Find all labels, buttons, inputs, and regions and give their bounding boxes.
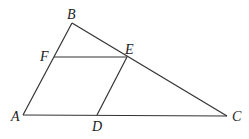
label-d: D (91, 119, 102, 134)
segment-ac (23, 115, 227, 116)
triangle-diagram: B F E A D C (0, 0, 249, 139)
label-a: A (10, 109, 20, 124)
label-e: E (124, 42, 134, 57)
segment-ed (97, 57, 127, 115)
label-b: B (67, 7, 76, 22)
segment-ab (23, 23, 72, 115)
label-c: C (232, 109, 242, 124)
label-f: F (39, 49, 49, 64)
segment-bc (72, 23, 227, 116)
